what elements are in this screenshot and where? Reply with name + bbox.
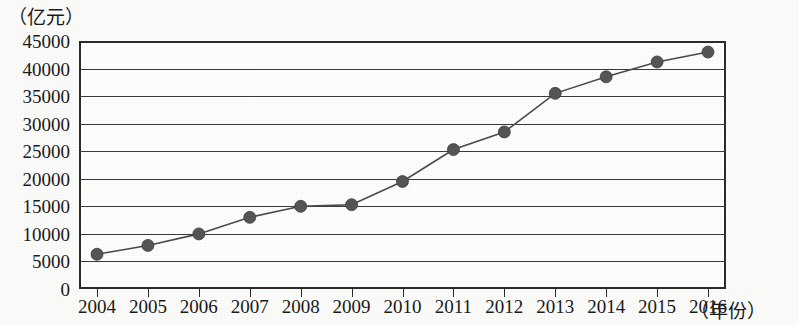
x-axis-title: （年份） (690, 296, 766, 323)
x-tick-label: 2010 (384, 297, 422, 316)
chart-page: （亿元） 05000100001500020000250003000035000… (0, 0, 799, 325)
x-tick-label: 2012 (485, 297, 523, 316)
x-tick-label: 2014 (587, 297, 625, 316)
x-tick-label: 2011 (435, 297, 472, 316)
x-tick-label: 2007 (231, 297, 269, 316)
x-tick-label: 2008 (282, 297, 320, 316)
x-tick-label: 2013 (536, 297, 574, 316)
x-axis-tick-labels: 2004200520062007200820092010201120122013… (0, 0, 799, 325)
x-tick-label: 2009 (333, 297, 371, 316)
x-tick-label: 2015 (638, 297, 676, 316)
x-tick-label: 2005 (129, 297, 167, 316)
x-tick-label: 2004 (78, 297, 116, 316)
x-tick-label: 2006 (180, 297, 218, 316)
